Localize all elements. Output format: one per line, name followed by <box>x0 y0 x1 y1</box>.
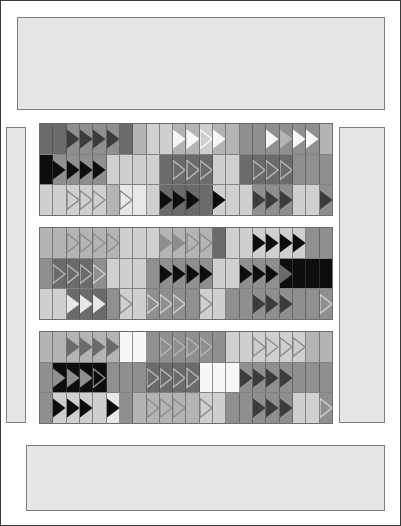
stimulus-cell[interactable] <box>40 259 53 289</box>
stimulus-cell[interactable] <box>173 332 186 362</box>
stimulus-cell[interactable] <box>306 124 319 154</box>
stimulus-cell[interactable] <box>253 289 266 319</box>
stimulus-cell[interactable] <box>320 332 332 362</box>
stimulus-cell[interactable] <box>293 155 306 185</box>
stimulus-cell[interactable] <box>200 332 213 362</box>
stimulus-cell[interactable] <box>40 332 53 362</box>
stimulus-cell[interactable] <box>120 332 133 362</box>
stimulus-cell[interactable] <box>240 259 253 289</box>
stimulus-block-3[interactable] <box>39 331 333 424</box>
stimulus-cell[interactable] <box>320 393 332 423</box>
stimulus-cell[interactable] <box>226 289 239 319</box>
stimulus-cell[interactable] <box>253 393 266 423</box>
stimulus-cell[interactable] <box>107 124 120 154</box>
stimulus-cell[interactable] <box>266 124 279 154</box>
stimulus-cell[interactable] <box>53 124 66 154</box>
stimulus-cell[interactable] <box>280 393 293 423</box>
stimulus-cell[interactable] <box>120 155 133 185</box>
stimulus-cell[interactable] <box>293 185 306 215</box>
stimulus-cell[interactable] <box>160 155 173 185</box>
stimulus-cell[interactable] <box>240 289 253 319</box>
stimulus-cell[interactable] <box>120 363 133 393</box>
stimulus-cell[interactable] <box>173 228 186 258</box>
stimulus-cell[interactable] <box>266 393 279 423</box>
stimulus-cell[interactable] <box>93 289 106 319</box>
stimulus-cell[interactable] <box>173 259 186 289</box>
stimulus-cell[interactable] <box>133 259 146 289</box>
stimulus-cell[interactable] <box>306 155 319 185</box>
stimulus-cell[interactable] <box>226 259 239 289</box>
stimulus-cell[interactable] <box>200 185 213 215</box>
stimulus-cell[interactable] <box>240 185 253 215</box>
stimulus-cell[interactable] <box>147 393 160 423</box>
stimulus-cell[interactable] <box>40 185 53 215</box>
stimulus-cell[interactable] <box>147 332 160 362</box>
stimulus-cell[interactable] <box>186 332 199 362</box>
stimulus-cell[interactable] <box>213 393 226 423</box>
stimulus-block-2[interactable] <box>39 227 333 320</box>
stimulus-cell[interactable] <box>67 259 80 289</box>
stimulus-cell[interactable] <box>53 228 66 258</box>
stimulus-cell[interactable] <box>280 124 293 154</box>
stimulus-cell[interactable] <box>107 155 120 185</box>
stimulus-cell[interactable] <box>93 228 106 258</box>
stimulus-cell[interactable] <box>306 332 319 362</box>
stimulus-cell[interactable] <box>120 289 133 319</box>
stimulus-cell[interactable] <box>80 228 93 258</box>
stimulus-cell[interactable] <box>107 289 120 319</box>
stimulus-cell[interactable] <box>240 124 253 154</box>
stimulus-cell[interactable] <box>67 155 80 185</box>
stimulus-cell[interactable] <box>147 124 160 154</box>
stimulus-cell[interactable] <box>80 155 93 185</box>
stimulus-cell[interactable] <box>40 228 53 258</box>
stimulus-cell[interactable] <box>213 332 226 362</box>
stimulus-cell[interactable] <box>266 259 279 289</box>
stimulus-cell[interactable] <box>67 363 80 393</box>
stimulus-cell[interactable] <box>173 124 186 154</box>
stimulus-cell[interactable] <box>266 228 279 258</box>
stimulus-cell[interactable] <box>213 185 226 215</box>
stimulus-cell[interactable] <box>280 289 293 319</box>
stimulus-cell[interactable] <box>120 393 133 423</box>
stimulus-cell[interactable] <box>253 332 266 362</box>
stimulus-cell[interactable] <box>53 393 66 423</box>
stimulus-cell[interactable] <box>266 289 279 319</box>
stimulus-cell[interactable] <box>226 228 239 258</box>
stimulus-cell[interactable] <box>173 155 186 185</box>
stimulus-cell[interactable] <box>53 332 66 362</box>
stimulus-cell[interactable] <box>147 155 160 185</box>
stimulus-cell[interactable] <box>80 185 93 215</box>
stimulus-cell[interactable] <box>280 228 293 258</box>
stimulus-cell[interactable] <box>226 155 239 185</box>
stimulus-cell[interactable] <box>280 332 293 362</box>
stimulus-cell[interactable] <box>226 124 239 154</box>
stimulus-cell[interactable] <box>240 363 253 393</box>
stimulus-cell[interactable] <box>293 259 306 289</box>
stimulus-cell[interactable] <box>67 289 80 319</box>
stimulus-cell[interactable] <box>147 228 160 258</box>
stimulus-cell[interactable] <box>133 289 146 319</box>
stimulus-cell[interactable] <box>253 185 266 215</box>
stimulus-cell[interactable] <box>173 393 186 423</box>
stimulus-cell[interactable] <box>160 124 173 154</box>
stimulus-cell[interactable] <box>40 289 53 319</box>
stimulus-cell[interactable] <box>280 363 293 393</box>
stimulus-cell[interactable] <box>80 393 93 423</box>
stimulus-cell[interactable] <box>93 124 106 154</box>
stimulus-cell[interactable] <box>293 228 306 258</box>
stimulus-cell[interactable] <box>80 124 93 154</box>
stimulus-cell[interactable] <box>306 185 319 215</box>
stimulus-cell[interactable] <box>280 155 293 185</box>
stimulus-cell[interactable] <box>133 363 146 393</box>
stimulus-cell[interactable] <box>67 228 80 258</box>
stimulus-cell[interactable] <box>133 393 146 423</box>
stimulus-cell[interactable] <box>93 259 106 289</box>
stimulus-cell[interactable] <box>120 228 133 258</box>
stimulus-cell[interactable] <box>240 155 253 185</box>
stimulus-cell[interactable] <box>186 393 199 423</box>
stimulus-cell[interactable] <box>160 332 173 362</box>
stimulus-cell[interactable] <box>293 332 306 362</box>
stimulus-cell[interactable] <box>293 363 306 393</box>
stimulus-cell[interactable] <box>253 363 266 393</box>
stimulus-cell[interactable] <box>320 259 332 289</box>
